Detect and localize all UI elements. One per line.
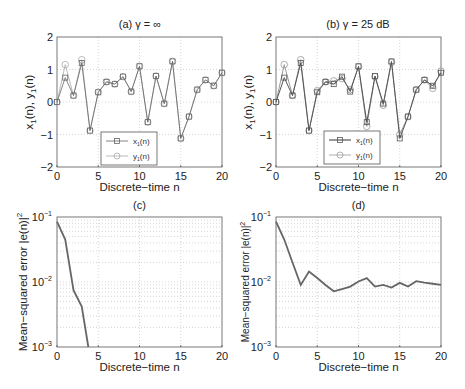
- svg-text:10−2: 10−2: [32, 275, 52, 288]
- figure: (a) γ = ∞ 05101520 −2−1012 Discrete−time…: [0, 0, 465, 389]
- panel-c-y-ticks: 10−110−210−3: [32, 210, 52, 353]
- panel-a-legend-x1: x1(n): [133, 137, 150, 147]
- panel-c-x-label: Discrete−time n: [99, 361, 179, 373]
- panel-a-y-ticks: −2−1012: [40, 31, 53, 173]
- panel-b-y-label: x1(n), y1(n): [242, 74, 257, 129]
- svg-text:0: 0: [266, 96, 272, 108]
- svg-text:1: 1: [47, 64, 53, 76]
- panel-c-title: (c): [133, 199, 146, 211]
- svg-text:20: 20: [435, 170, 447, 182]
- panel-c-y-label: Mean−squared error |e(n)|2: [15, 212, 29, 351]
- panel-d-title: (d): [352, 199, 365, 211]
- svg-text:20: 20: [435, 350, 447, 362]
- svg-text:10−3: 10−3: [251, 340, 271, 353]
- panel-d-y-ticks: 10−110−210−3: [251, 210, 271, 353]
- svg-text:10−2: 10−2: [251, 275, 271, 288]
- svg-text:0: 0: [54, 170, 60, 182]
- panel-a-chart: (a) γ = ∞ 05101520 −2−1012 Discrete−time…: [23, 18, 228, 193]
- svg-text:10−3: 10−3: [32, 340, 52, 353]
- panel-b-series: [273, 56, 445, 140]
- panel-a-x-label: Discrete−time n: [99, 181, 179, 193]
- panel-a-series: [54, 56, 226, 141]
- panel-b-legend-y1: y1(n): [356, 151, 373, 161]
- panel-a-legend: x1(n) y1(n): [101, 132, 157, 165]
- svg-text:−1: −1: [40, 129, 53, 141]
- panel-b-title: (b) γ = 25 dB: [326, 18, 389, 30]
- panel-d-x-label: Discrete−time n: [318, 361, 398, 373]
- svg-text:10−1: 10−1: [32, 210, 52, 223]
- panel-a-title: (a) γ = ∞: [119, 18, 161, 30]
- panel-c-grid: [57, 217, 222, 347]
- panel-c-series: [57, 222, 88, 347]
- svg-text:2: 2: [266, 31, 272, 43]
- svg-text:−1: −1: [259, 129, 272, 141]
- panel-a-x-ticks: 05101520: [54, 165, 228, 182]
- panel-b-y-ticks: −2−1012: [259, 31, 272, 173]
- panel-b-legend-x1: x1(n): [356, 136, 373, 146]
- panel-b-chart: (b) γ = 25 dB 05101520 −2−1012 Discrete−…: [242, 18, 447, 193]
- svg-text:20: 20: [216, 350, 228, 362]
- panel-c-chart: (c) 05101520 10−110−210−3 Discrete−time …: [15, 199, 228, 373]
- svg-text:0: 0: [47, 96, 53, 108]
- svg-text:0: 0: [54, 350, 60, 362]
- svg-text:20: 20: [216, 170, 228, 182]
- svg-text:2: 2: [47, 31, 53, 43]
- panel-d-x-ticks: 05101520: [273, 345, 447, 362]
- panel-a-legend-y1: y1(n): [133, 152, 150, 162]
- panel-a-y-label: x1(n), y1(n): [23, 74, 38, 129]
- panel-b-x-label: Discrete−time n: [318, 181, 398, 193]
- panel-c-x-ticks: 05101520: [54, 345, 228, 362]
- svg-text:0: 0: [273, 350, 279, 362]
- panel-d-y-label: Mean−squared error |e(n)|2: [239, 222, 251, 343]
- svg-text:10−1: 10−1: [251, 210, 271, 223]
- panel-b-legend: x1(n) y1(n): [324, 131, 380, 164]
- svg-text:−2: −2: [40, 161, 53, 173]
- svg-text:0: 0: [273, 170, 279, 182]
- svg-text:−2: −2: [259, 161, 272, 173]
- panel-b-x-ticks: 05101520: [273, 165, 447, 182]
- svg-text:1: 1: [266, 64, 272, 76]
- panel-d-chart: (d) 05101520 10−110−210−3 Discrete−time …: [239, 199, 447, 373]
